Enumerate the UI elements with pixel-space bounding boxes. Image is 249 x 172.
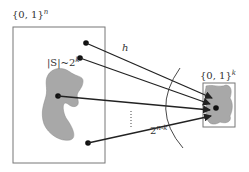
function-label: h [122,42,128,53]
preimage-arc [166,68,183,148]
set-size-label: |S|~2k [47,56,80,69]
arrow-3 [58,96,210,110]
target-point [213,105,219,111]
hash-function-diagram: {0, 1}n |S|~2k {0, 1}k h 2n-k [0,0,249,172]
domain-label: {0, 1}n [12,8,49,20]
image-blob [205,85,233,124]
set-s-blob [42,68,83,140]
range-label: {0, 1}k [200,69,236,81]
arrow-2 [80,58,210,104]
preimage-label: 2n-k [150,124,168,136]
